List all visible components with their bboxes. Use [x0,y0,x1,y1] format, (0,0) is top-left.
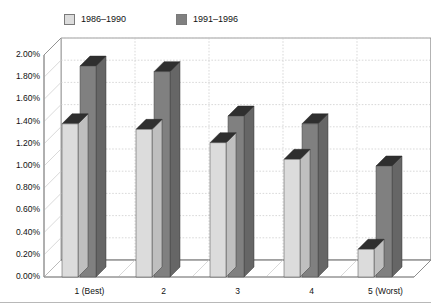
bar-chart: 1986–1990 1991–1996 2.00%1.80%1.60%1.40%… [0,0,431,308]
x-axis-tick-label: 4 [309,286,314,296]
x-axis-tick-label: 5 (Worst) [368,286,403,296]
x-axis-tick-label: 3 [235,286,240,296]
x-axis-tick-label: 1 (Best) [75,286,105,296]
x-axis-tick-label: 2 [161,286,166,296]
footer-divider [0,302,431,303]
x-axis-tick-labels: 1 (Best)2345 (Worst) [0,0,431,308]
